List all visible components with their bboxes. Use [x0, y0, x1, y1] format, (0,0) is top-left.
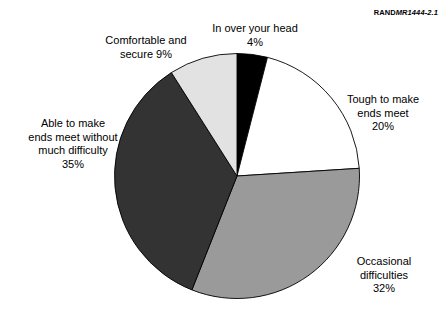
pie-label-able-to-make-ends-meet: Able to make ends meet without much diff…	[8, 117, 138, 171]
pie-svg	[113, 52, 361, 300]
pie-label-tough-to-make-ends-meet: Tough to make ends meet 20%	[327, 93, 439, 134]
pie-graphic	[113, 52, 361, 300]
pie-label-occasional-difficulties: Occasional difficulties 32%	[330, 255, 438, 296]
pie-label-in-over-your-head: In over your head 4%	[196, 22, 314, 49]
source-note: RANDMR1444-2.1	[374, 8, 438, 17]
pie-chart-figure: RANDMR1444-2.1 In over your head 4% Toug…	[0, 0, 446, 328]
pie-slice-group	[114, 54, 359, 299]
source-note-code: MR1444-2.1	[396, 8, 438, 17]
source-note-brand: RAND	[374, 8, 396, 17]
pie-label-comfortable-and-secure: Comfortable and secure 9%	[84, 34, 208, 61]
